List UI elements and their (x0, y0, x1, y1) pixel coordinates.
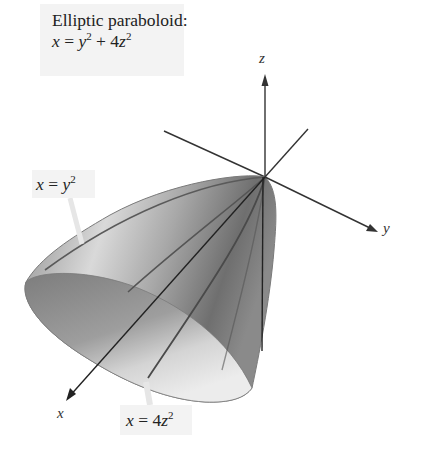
z-axis-label: z (259, 50, 265, 67)
title-equation: x = y2 + 4z2 (52, 31, 184, 52)
lbl2-eq: = (134, 410, 153, 430)
lbl2-var: z (161, 410, 168, 430)
y-axis-label: y (383, 220, 390, 237)
title-label: Elliptic paraboloid: x = y2 + 4z2 (40, 4, 184, 76)
eq-z: z (119, 31, 126, 51)
elliptic-paraboloid-figure: Elliptic paraboloid: x = y2 + 4z2 x = y2… (0, 0, 424, 461)
x-axis-label: x (57, 405, 64, 422)
trace-label-x-eq-y2: x = y2 (32, 170, 95, 198)
trace-label-x-eq-4z2: x = 4z2 (120, 405, 192, 435)
lbl1-lhs: x (36, 174, 44, 194)
z-axis-arrow-icon (262, 74, 269, 86)
eq-z-exp: 2 (126, 30, 132, 42)
lbl2-lhs: x (126, 410, 134, 430)
y-axis-back (164, 131, 265, 177)
lbl1-eq: = (44, 174, 63, 194)
eq-lhs: x (52, 31, 60, 51)
y-axis (265, 177, 372, 229)
lbl2-coef: 4 (152, 410, 161, 430)
x-axis-back (265, 129, 308, 177)
leader-line-2 (146, 382, 150, 405)
title-text: Elliptic paraboloid: (52, 10, 184, 31)
lbl1-exp: 2 (70, 173, 76, 185)
eq-plus: + 4 (92, 31, 119, 51)
lbl2-exp: 2 (168, 409, 174, 421)
eq-sign: = (60, 31, 79, 51)
y-axis-arrow-icon (366, 224, 378, 232)
